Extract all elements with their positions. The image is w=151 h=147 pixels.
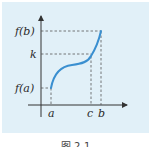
function-graph: f(b) k f(a) a c b [0, 0, 151, 147]
function-curve [51, 31, 101, 88]
label-b: b [98, 107, 105, 120]
guide-lines [41, 31, 101, 105]
label-f-b: f(b) [14, 25, 35, 38]
figure-caption: 图 2-1 [0, 138, 151, 147]
label-a: a [48, 107, 55, 120]
label-c: c [87, 107, 93, 120]
label-k: k [30, 48, 37, 61]
label-f-a: f(a) [14, 82, 34, 95]
